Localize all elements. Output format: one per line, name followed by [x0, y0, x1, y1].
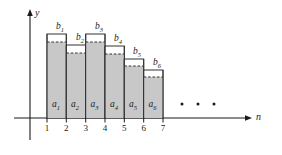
x-tick-label-5: 5	[119, 124, 129, 133]
bar-label-b5: b5	[133, 47, 141, 58]
bar-label-a3: a3	[91, 100, 99, 111]
bar-label-b4: b4	[114, 34, 122, 45]
x-tick-label-6: 6	[139, 124, 149, 133]
bars-group	[47, 34, 163, 118]
y-axis	[27, 9, 33, 140]
bar-label-b6: b6	[153, 58, 161, 69]
x-tick-label-7: 7	[158, 124, 168, 133]
bar-label-a4: a4	[110, 100, 118, 111]
bar-series-figure: y n b1 b2 b3 b4 b5 b6 a1 a2 a3 a4 a5 a6 …	[0, 0, 282, 155]
bar-label-b3: b3	[95, 22, 103, 33]
y-axis-label: y	[35, 8, 39, 18]
x-axis-label: n	[256, 112, 261, 122]
ellipsis-dots-icon	[181, 103, 216, 106]
bar-label-a1: a1	[52, 100, 60, 111]
x-tick-label-4: 4	[100, 124, 110, 133]
x-tick-label-1: 1	[42, 124, 52, 133]
bar-label-b1: b1	[56, 22, 64, 33]
bar-label-a2: a2	[71, 100, 79, 111]
bar-label-a6: a6	[149, 100, 157, 111]
x-tick-label-2: 2	[61, 124, 71, 133]
x-tick-label-3: 3	[81, 124, 91, 133]
bar-label-b2: b2	[76, 33, 84, 44]
bar-label-a5: a5	[129, 100, 137, 111]
x-tick-marks	[47, 118, 163, 123]
